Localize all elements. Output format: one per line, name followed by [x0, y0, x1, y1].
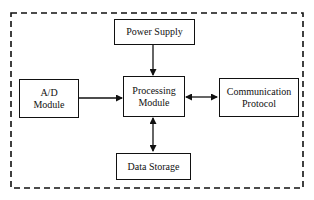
- communication-protocol-label-line1: Communication: [227, 86, 291, 98]
- communication-protocol-block: Communication Protocol: [219, 78, 299, 117]
- processing-module-block: Processing Module: [123, 76, 185, 117]
- ad-module-label-line2: Module: [33, 99, 64, 111]
- power-supply-label: Power Supply: [126, 26, 182, 38]
- data-storage-label: Data Storage: [128, 161, 180, 173]
- data-storage-block: Data Storage: [116, 153, 191, 180]
- power-supply-block: Power Supply: [114, 19, 195, 45]
- processing-module-label-line1: Processing: [132, 85, 175, 97]
- ad-module-label-line1: A/D: [40, 87, 57, 99]
- communication-protocol-label-line2: Protocol: [242, 98, 276, 110]
- processing-module-label-line2: Module: [138, 97, 169, 109]
- ad-module-block: A/D Module: [19, 79, 79, 118]
